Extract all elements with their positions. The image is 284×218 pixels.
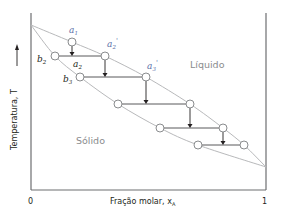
x-axis-label-subscript: A [172,201,176,207]
label-a2-prime: a2' [107,37,118,50]
x-axis-label-text: Fração molar, x [110,197,172,206]
point-a1 [68,38,76,46]
down-arrow-icon [144,81,149,104]
solidus-curve [31,25,266,167]
point-a3-prime [142,73,150,81]
x-tick-1: 1 [262,197,267,206]
region-label-solid: Sólido [76,135,105,146]
point-s5 [156,124,164,132]
point-l4 [186,100,194,108]
point-s4 [114,100,122,108]
point-l6 [240,141,248,149]
temperature-up-arrow-icon [15,44,19,66]
y-axis-label-group: Temperatura, T [10,89,19,151]
label-a1: a1 [69,25,78,36]
label-b3: b3 [63,74,73,85]
point-a2-prime [101,52,109,60]
x-axis-label: Fração molar, xA [110,197,176,207]
label-b2: b2 [37,54,47,65]
point-s6 [194,141,202,149]
x-tick-0: 0 [28,197,33,206]
liquidus-curve [31,25,266,167]
phase-diagram: a1b2a2'b3a3'a2 Líquido Sólido Temperatur… [0,0,284,218]
down-arrow-icon [188,108,193,128]
down-arrow-icon [103,60,108,77]
point-b3 [76,73,84,81]
y-axis-label: Temperatura, T [10,89,19,151]
label-a3-prime: a3' [147,59,158,72]
down-arrow-icon [70,46,75,56]
down-arrow-icon [221,132,226,145]
composition-points [51,38,248,149]
label-a2: a2 [73,59,82,70]
point-l5 [219,124,227,132]
point-b2 [51,52,59,60]
region-label-liquid: Líquido [190,59,225,70]
